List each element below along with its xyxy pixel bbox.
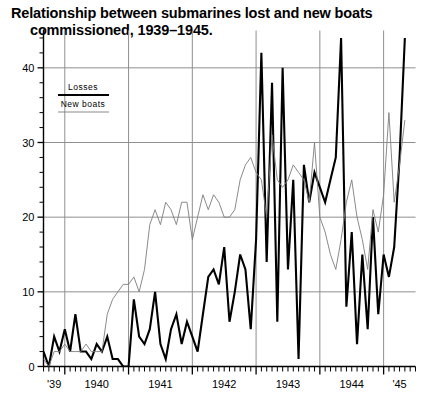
x-axis-tick-label: 1941 <box>148 378 172 390</box>
y-axis-tick-label: 30 <box>22 137 34 149</box>
y-axis-tick-label: 20 <box>22 211 34 223</box>
x-axis-tick-label: '39 <box>47 378 61 390</box>
x-axis-tick-label: 1942 <box>212 378 236 390</box>
x-axis-tick-label: 1940 <box>84 378 108 390</box>
legend-label-new-boats: New boats <box>61 99 106 109</box>
legend-label-losses: Losses <box>68 82 98 92</box>
y-axis-tick-labels: 010203040 <box>22 62 34 373</box>
x-axis-tick-label: 1943 <box>276 378 300 390</box>
chart-legend: LossesNew boats <box>58 82 109 112</box>
y-axis-tick-label: 40 <box>22 62 34 74</box>
chart-plot-area: 010203040 '3919401941194219431944'45 Los… <box>0 0 426 397</box>
x-axis-tick-label: 1944 <box>339 378 363 390</box>
y-axis-tick-label: 0 <box>28 361 34 373</box>
x-axis-tick-label: '45 <box>392 378 406 390</box>
y-axis-tick-label: 10 <box>22 286 34 298</box>
x-axis-tick-labels: '3919401941194219431944'45 <box>47 378 407 390</box>
chart-container: Relationship between submarines lost and… <box>0 0 426 397</box>
